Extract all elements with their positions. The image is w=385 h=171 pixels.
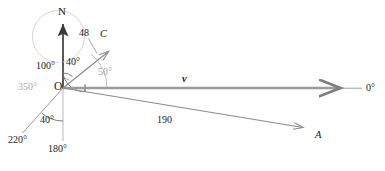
bearing-ray-220 <box>23 88 64 133</box>
arc-40-degrees-inner <box>63 78 69 80</box>
label-180-degrees: 180° <box>48 144 67 154</box>
leader-line-48 <box>89 39 98 54</box>
label-zero-degrees: 0° <box>366 83 375 93</box>
vector-diagram: N O 0° 180° 350° 220° 100° 40° 40° 50° 4… <box>0 0 385 171</box>
label-origin: O <box>54 81 62 93</box>
label-vector-v: v <box>182 74 187 85</box>
label-40-degrees-upper: 40° <box>66 57 80 67</box>
label-350-degrees: 350° <box>18 82 37 92</box>
label-40-degrees-lower: 40° <box>40 115 54 125</box>
label-50-degrees: 50° <box>98 67 112 77</box>
vector-A <box>63 88 303 128</box>
label-220-degrees: 220° <box>8 135 27 145</box>
label-vector-A: A <box>315 130 321 141</box>
label-north: N <box>58 6 66 17</box>
label-magnitude-190: 190 <box>157 115 172 125</box>
arc-350-degrees <box>32 10 84 62</box>
label-magnitude-48: 48 <box>79 28 89 38</box>
label-vector-C: C <box>100 29 107 40</box>
arc-40-degrees-upper <box>63 73 73 77</box>
label-100-degrees: 100° <box>36 61 55 71</box>
